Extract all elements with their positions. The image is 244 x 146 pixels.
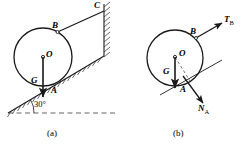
tension-vector	[196, 23, 222, 38]
label-point-b-b: B	[190, 26, 196, 36]
label-contact-a: A	[51, 85, 57, 95]
label-center-o-a: O	[46, 49, 53, 59]
vertical-wall	[104, 2, 110, 57]
panel-a-graphics	[8, 2, 119, 117]
label-normal-subscript: A	[205, 108, 210, 115]
cord-bc	[58, 11, 105, 32]
fbd-point-b-marker	[195, 37, 198, 40]
label-tension-tb: TB	[224, 14, 234, 26]
figure-container: O G A B C 30° (a) O G A B TB NA (b)	[0, 0, 244, 146]
label-tangent-b-a: B	[52, 20, 58, 30]
point-b-marker	[56, 31, 59, 34]
label-weight-g-a: G	[31, 75, 38, 85]
radius-dashed-line	[175, 57, 190, 81]
label-angle-30: 30°	[34, 99, 46, 109]
label-center-o-b: O	[179, 48, 186, 58]
figure-svg	[0, 0, 244, 146]
caption-panel-b: (b)	[173, 128, 184, 138]
label-anchor-c-a: C	[94, 0, 100, 10]
caption-panel-a: (a)	[47, 128, 57, 138]
label-contact-a-b: A	[180, 84, 186, 94]
label-normal-na: NA	[198, 103, 209, 115]
label-weight-g-b: G	[163, 66, 170, 76]
label-tension-subscript: B	[230, 19, 234, 26]
